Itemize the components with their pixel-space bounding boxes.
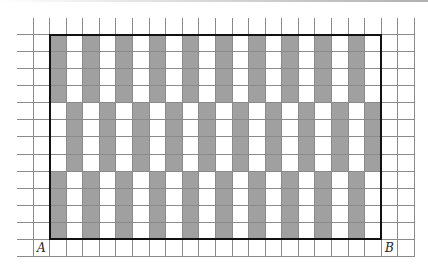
- shaded-cell: [365, 120, 382, 137]
- grid-cell: [299, 172, 315, 189]
- grid-cell: [266, 35, 282, 52]
- grid-cell: [299, 52, 315, 69]
- shaded-cell: [266, 103, 282, 120]
- shaded-cell: [100, 137, 116, 155]
- point-label-a: A: [37, 242, 46, 254]
- shaded-cell: [50, 172, 67, 189]
- shaded-cell: [183, 86, 199, 103]
- grid-cell: [266, 172, 282, 189]
- grid-cell: [233, 189, 249, 206]
- grid-cell: [266, 189, 282, 206]
- grid-cell: [332, 86, 349, 103]
- grid-cell: [199, 189, 216, 206]
- shaded-cell: [349, 69, 365, 86]
- grid-cell: [34, 103, 50, 120]
- grid-cell: [67, 223, 83, 240]
- shaded-cell: [315, 172, 332, 189]
- grid-cell: [150, 18, 166, 35]
- grid-cell: [116, 240, 133, 257]
- grid-cell: [233, 35, 249, 52]
- grid-cell: [398, 240, 415, 257]
- grid-cell: [100, 223, 116, 240]
- grid-cell: [150, 120, 166, 137]
- shaded-cell: [299, 120, 315, 137]
- grid-cell: [233, 240, 249, 257]
- grid-cell: [199, 206, 216, 223]
- grid-cell: [67, 240, 83, 257]
- shaded-cell: [83, 206, 100, 223]
- shaded-cell: [315, 206, 332, 223]
- grid-cell: [17, 103, 34, 120]
- grid-cell: [382, 223, 398, 240]
- grid-cell: [67, 86, 83, 103]
- grid-cell: [233, 18, 249, 35]
- grid-cell: [183, 155, 199, 172]
- grid-cell: [17, 120, 34, 137]
- grid-cell: [398, 137, 415, 155]
- grid-cell: [199, 223, 216, 240]
- grid-cell: [17, 223, 34, 240]
- grid-cell: [398, 35, 415, 52]
- shaded-cell: [299, 137, 315, 155]
- grid-cell: [315, 103, 332, 120]
- grid-cell: [100, 240, 116, 257]
- grid-cell: [100, 18, 116, 35]
- grid-cell: [67, 52, 83, 69]
- grid-cell: [382, 189, 398, 206]
- shaded-cell: [150, 206, 166, 223]
- grid-cell: [282, 137, 299, 155]
- grid-cell: [266, 52, 282, 69]
- grid-cell: [216, 155, 233, 172]
- shaded-cell: [116, 223, 133, 240]
- grid-cell: [332, 69, 349, 86]
- shaded-cell: [83, 35, 100, 52]
- grid-cell: [183, 103, 199, 120]
- grid-cell: [133, 18, 150, 35]
- grid-cell: [83, 137, 100, 155]
- point-label-b: B: [385, 242, 394, 254]
- grid-cell: [50, 137, 67, 155]
- shaded-cell: [199, 120, 216, 137]
- shaded-cell: [183, 172, 199, 189]
- grid-cell: [233, 86, 249, 103]
- grid-cell: [365, 69, 382, 86]
- shaded-cell: [166, 137, 183, 155]
- grid-cell: [233, 223, 249, 240]
- grid-cell: [332, 35, 349, 52]
- grid-cell: [282, 240, 299, 257]
- grid-cell: [166, 86, 183, 103]
- grid-cell: [116, 137, 133, 155]
- grid-cell: [150, 240, 166, 257]
- grid-cell: [382, 206, 398, 223]
- grid-cell: [282, 155, 299, 172]
- grid-cell: [133, 240, 150, 257]
- shaded-cell: [83, 52, 100, 69]
- shaded-cell: [332, 137, 349, 155]
- grid-cell: [398, 18, 415, 35]
- shaded-cell: [50, 86, 67, 103]
- grid-cell: [67, 18, 83, 35]
- shaded-cell: [150, 69, 166, 86]
- grid-cell: [299, 69, 315, 86]
- grid-cell: [100, 35, 116, 52]
- grid-cell: [34, 223, 50, 240]
- shaded-cell: [100, 103, 116, 120]
- shaded-cell: [183, 189, 199, 206]
- grid-cell: [249, 240, 266, 257]
- grid-cell: [299, 240, 315, 257]
- grid-cell: [133, 172, 150, 189]
- shaded-cell: [332, 120, 349, 137]
- shaded-cell: [150, 189, 166, 206]
- shaded-cell: [216, 223, 233, 240]
- shaded-cell: [282, 189, 299, 206]
- grid-cell: [34, 69, 50, 86]
- shaded-cell: [349, 35, 365, 52]
- shaded-cell: [199, 137, 216, 155]
- grid-cell: [332, 172, 349, 189]
- grid-cell: [34, 18, 50, 35]
- shaded-cell: [216, 172, 233, 189]
- shaded-cell: [216, 189, 233, 206]
- shaded-cell: [233, 120, 249, 137]
- grid-cell: [166, 35, 183, 52]
- grid-cell: [199, 86, 216, 103]
